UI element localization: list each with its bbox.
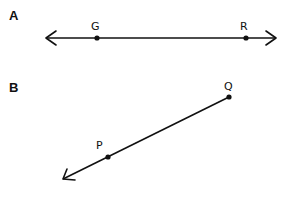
figure-b: B Q P [9, 80, 233, 180]
point-g [94, 35, 99, 40]
ray-qp [63, 97, 229, 179]
point-r-label: R [240, 20, 248, 33]
point-q-label: Q [224, 80, 233, 93]
point-q [226, 94, 231, 99]
figure-b-label: B [9, 80, 18, 95]
point-p [105, 154, 110, 159]
point-g-label: G [91, 20, 100, 33]
figure-a: A G R [9, 8, 276, 45]
diagram-canvas: A G R B Q P [0, 0, 300, 201]
point-r [243, 35, 248, 40]
point-p-label: P [96, 139, 103, 152]
figure-a-label: A [9, 8, 19, 23]
diagram-svg: A G R B Q P [0, 0, 300, 201]
